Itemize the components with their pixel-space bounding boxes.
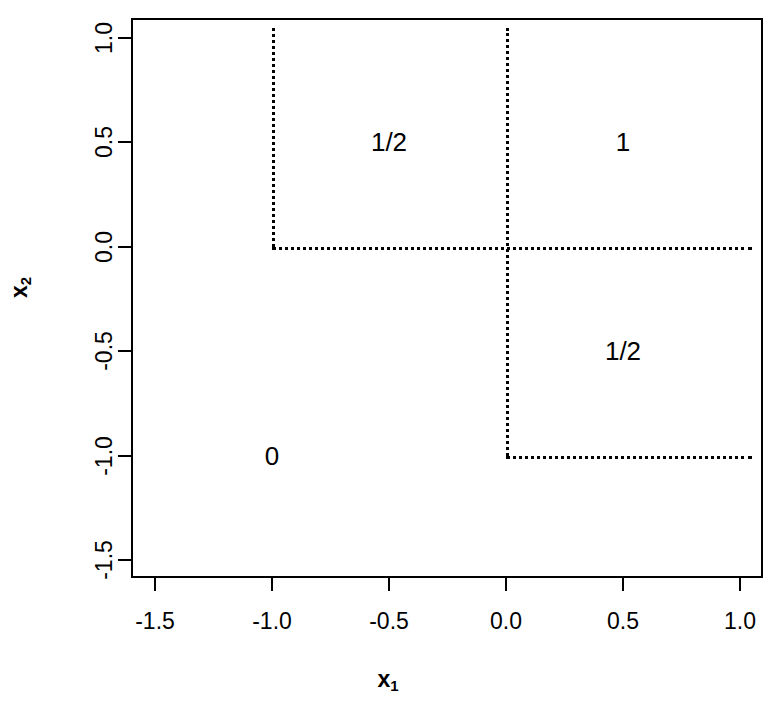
region-value-lower-left: 0 xyxy=(265,443,279,469)
plot-area-frame xyxy=(131,18,763,578)
x-axis-title-base: x xyxy=(377,666,390,692)
dotted-segment-vertical-x-0 xyxy=(506,28,509,456)
y-axis-tick-1 xyxy=(118,141,131,143)
y-axis-tick-4 xyxy=(118,455,131,457)
x-axis-tick-0 xyxy=(154,578,156,591)
y-axis-ticklabel-1: 0.5 xyxy=(93,126,116,158)
y-axis-ticklabel-0: 1.0 xyxy=(93,22,116,54)
y-axis-ticklabel-2: 0.0 xyxy=(93,231,116,263)
y-axis-title: x2 xyxy=(8,277,33,298)
x-axis-ticklabel-2: -0.5 xyxy=(369,610,409,633)
dotted-segment-horizontal-y-minus-1 xyxy=(506,456,752,459)
region-value-upper-left: 1/2 xyxy=(371,129,407,155)
x-axis-ticklabel-4: 0.5 xyxy=(607,610,639,633)
x-axis-ticklabel-5: 1.0 xyxy=(724,610,756,633)
x-axis-tick-4 xyxy=(622,578,624,591)
y-axis-title-subscript: 2 xyxy=(17,277,34,285)
y-axis-tick-0 xyxy=(118,37,131,39)
y-axis-tick-5 xyxy=(118,559,131,561)
x-axis-ticklabel-1: -1.0 xyxy=(252,610,292,633)
x-axis-tick-1 xyxy=(271,578,273,591)
x-axis-tick-3 xyxy=(505,578,507,591)
y-axis-ticklabel-5: -1.5 xyxy=(93,540,116,580)
y-axis-tick-2 xyxy=(118,246,131,248)
x-axis-ticklabel-0: -1.5 xyxy=(135,610,175,633)
x-axis-title: x1 xyxy=(0,668,776,693)
dotted-segment-horizontal-y-0 xyxy=(272,247,752,250)
region-value-upper-right: 1 xyxy=(616,129,630,155)
x-axis-tick-2 xyxy=(388,578,390,591)
x-axis-tick-5 xyxy=(739,578,741,591)
y-axis-ticklabel-3: -0.5 xyxy=(93,331,116,371)
chart-figure: 1/2 1 1/2 0 -1.5 -1.0 -0.5 0.0 0.5 1.0 1… xyxy=(0,0,776,703)
x-axis-title-subscript: 1 xyxy=(390,677,398,694)
y-axis-ticklabel-4: -1.0 xyxy=(93,436,116,476)
dotted-segment-vertical-x-minus-1 xyxy=(272,28,275,247)
x-axis-ticklabel-3: 0.0 xyxy=(490,610,522,633)
region-value-lower-right: 1/2 xyxy=(605,338,641,364)
y-axis-title-base: x xyxy=(6,285,32,298)
y-axis-tick-3 xyxy=(118,350,131,352)
